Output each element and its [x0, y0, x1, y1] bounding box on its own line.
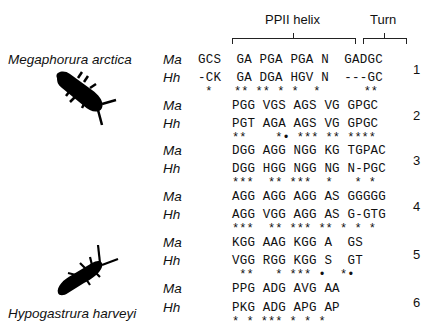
sequence-ma: AGG AGG AGG AS GGGGG: [232, 190, 386, 204]
species-abbrev-hh: Hh: [163, 300, 180, 315]
sequence-hh: AGG VGG AGG AS G-GTG: [232, 208, 386, 222]
species-abbrev-hh: Hh: [163, 116, 180, 131]
turn-bracket-tick: [384, 33, 385, 38]
species-abbrev-ma: Ma: [163, 143, 182, 158]
conservation-markers: * ** ** * * * **: [198, 87, 378, 97]
species-abbrev-hh: Hh: [163, 207, 180, 222]
species-abbrev-ma: Ma: [163, 98, 182, 113]
species-abbrev-hh: Hh: [163, 253, 180, 268]
sequence-hh: -CK GA DGA HGV N ---GC: [198, 71, 383, 85]
species-name-bottom: Hypogastrura harveyi: [8, 306, 136, 321]
block-number: 6: [413, 295, 420, 310]
conservation-markers: *** ** *** ** * * *: [232, 224, 376, 234]
sequence-ma: DGG AGG NGG KG TGPAC: [232, 144, 386, 158]
turn-bracket: [363, 38, 407, 44]
ppii-helix-bracket-tick: [293, 33, 294, 38]
block-number: 1: [413, 62, 420, 77]
ppii-helix-bracket: [232, 38, 356, 44]
species-name-top: Megaphorura arctica: [8, 52, 132, 67]
species-abbrev-hh: Hh: [163, 161, 180, 176]
species-abbrev-ma: Ma: [163, 281, 182, 296]
species-abbrev-ma: Ma: [163, 52, 182, 67]
block-number: 2: [413, 108, 420, 123]
conservation-markers: * * *** * * *: [232, 317, 326, 327]
sequence-ma: PPG ADG AVG AA: [232, 282, 340, 296]
conservation-markers: ** *• *** ** ****: [232, 133, 376, 143]
megaphorura-silhouette-icon: [52, 70, 122, 130]
turn-label: Turn: [370, 12, 396, 27]
conservation-markers: *** ** *** * * *: [232, 178, 376, 188]
sequence-hh: VGG RGG KGG S GT: [232, 254, 363, 268]
sequence-ma: PGG VGS AGS VG GPGC: [232, 99, 378, 113]
sequence-hh: DGG HGG NGG NG N-PGC: [232, 162, 386, 176]
sequence-ma: GCS GA PGA PGA N GADGC: [198, 53, 383, 67]
hypogastrura-silhouette-icon: [56, 243, 122, 299]
block-number: 3: [413, 153, 420, 168]
species-abbrev-ma: Ma: [163, 189, 182, 204]
block-number: 5: [413, 247, 420, 262]
sequence-hh: PKG ADG APG AP: [232, 301, 340, 315]
conservation-markers: ** * *** • *•: [232, 270, 354, 280]
sequence-hh: PGT AGA AGS VG GPGC: [232, 117, 378, 131]
ppii-helix-label: PPII helix: [265, 12, 320, 27]
sequence-ma: KGG AAG KGG A GS: [232, 236, 363, 250]
species-abbrev-ma: Ma: [163, 235, 182, 250]
block-number: 4: [413, 199, 420, 214]
species-abbrev-hh: Hh: [163, 70, 180, 85]
